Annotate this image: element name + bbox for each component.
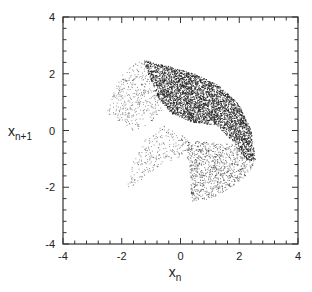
- y-tick-label: 0: [49, 125, 55, 137]
- x-axis-label: xn: [169, 264, 182, 283]
- plot-frame: [63, 17, 298, 244]
- y-tick-labels: -4-2024: [45, 11, 55, 250]
- x-tick-label: 2: [236, 250, 242, 262]
- x-tick-label: -4: [58, 250, 68, 262]
- axis-ticks: [63, 17, 298, 244]
- y-tick-label: -4: [45, 238, 55, 250]
- y-axis-label: xn+1: [8, 123, 32, 142]
- y-tick-label: 2: [49, 68, 55, 80]
- scatter-points: [108, 61, 256, 202]
- x-tick-label: -2: [117, 250, 127, 262]
- y-tick-label: 4: [49, 11, 55, 23]
- scatter-chart: -4-2024 -4-2024 xn xn+1: [0, 0, 312, 292]
- x-tick-label: 4: [295, 250, 301, 262]
- x-tick-labels: -4-2024: [58, 250, 301, 262]
- y-tick-label: -2: [45, 181, 55, 193]
- x-tick-label: 0: [177, 250, 183, 262]
